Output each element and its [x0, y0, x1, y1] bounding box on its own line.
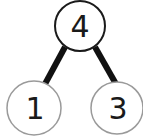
number-bond-diagram: 4 1 3: [0, 0, 143, 139]
connector-left: [45, 47, 65, 84]
connector-right: [95, 47, 116, 84]
part-circle-right: 3: [91, 82, 143, 134]
part-left-value: 1: [25, 91, 44, 126]
whole-circle: 4: [55, 1, 105, 51]
whole-value: 4: [70, 9, 89, 44]
part-circle-left: 1: [7, 81, 61, 135]
part-right-value: 3: [108, 91, 127, 126]
